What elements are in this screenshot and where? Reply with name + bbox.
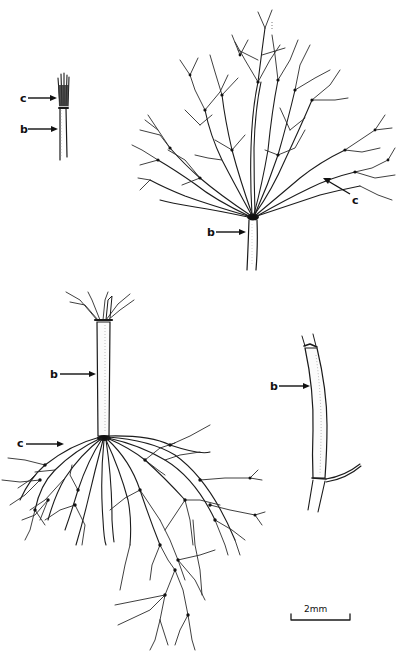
small-shoot-drawing: c b (20, 73, 69, 160)
label-b-small: b (20, 123, 28, 136)
botanical-figure: c b (0, 0, 403, 651)
label-b-bottom: b (50, 368, 58, 381)
label-c-small: c (20, 92, 27, 105)
top-whorl-drawing: b c (132, 10, 395, 270)
label-b-top: b (207, 226, 215, 239)
bottom-whorl-drawing: b c (2, 292, 265, 650)
label-c-bottom: c (17, 437, 24, 450)
scale-bar: 2mm (291, 604, 350, 620)
stem-segment-drawing: b (270, 334, 361, 512)
label-b-segment: b (270, 380, 278, 393)
label-c-top: c (352, 194, 359, 207)
scale-bar-label: 2mm (304, 604, 327, 614)
